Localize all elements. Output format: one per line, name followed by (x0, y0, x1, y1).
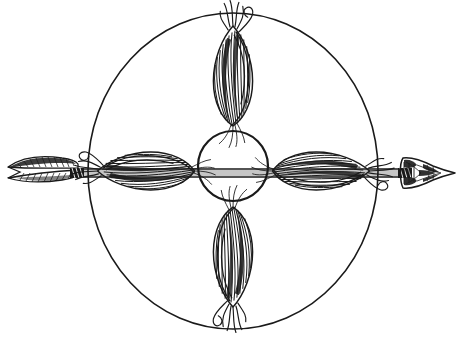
corn-ear-east (252, 152, 395, 190)
arrow (8, 157, 455, 188)
arrow-fletching (8, 157, 78, 182)
inner-circle (198, 131, 268, 201)
corn-ear-west (73, 152, 216, 190)
corn-ear-south (213, 185, 252, 332)
illustration-canvas (0, 0, 464, 343)
corn-ear-north (213, 1, 252, 148)
drawing-svg (0, 0, 464, 343)
